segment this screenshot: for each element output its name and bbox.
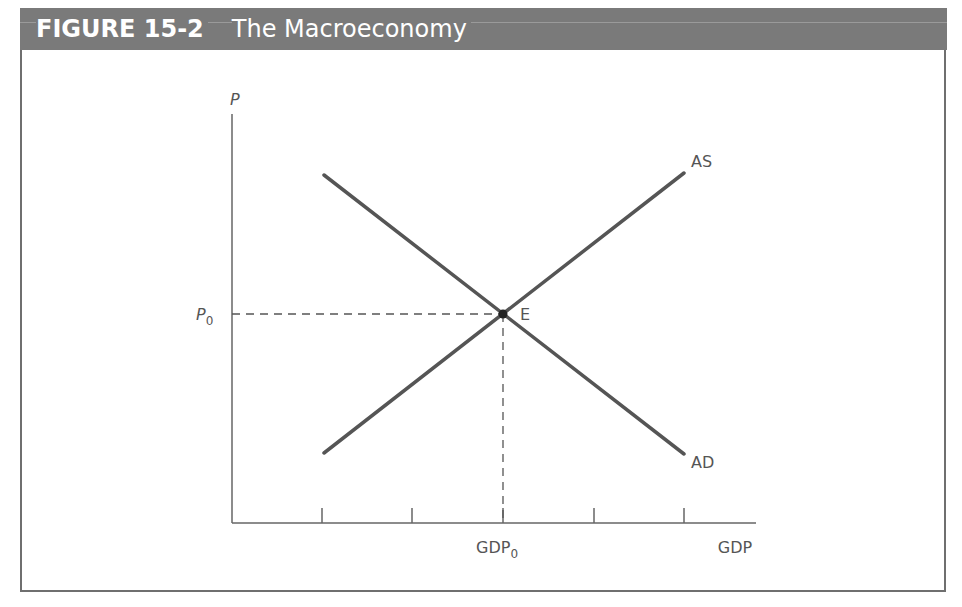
gdp0-label: GDP0 (476, 538, 518, 561)
ad-as-chart: P GDP P0 GDP0 E AS AD (0, 0, 962, 607)
x-axis-label: GDP (718, 538, 753, 557)
as-curve-label: AS (691, 152, 712, 171)
equilibrium-point (499, 310, 508, 319)
y-axis-label: P (230, 90, 240, 109)
p0-label: P0 (196, 305, 213, 328)
equilibrium-label: E (520, 305, 530, 324)
ad-curve-label: AD (691, 453, 714, 472)
